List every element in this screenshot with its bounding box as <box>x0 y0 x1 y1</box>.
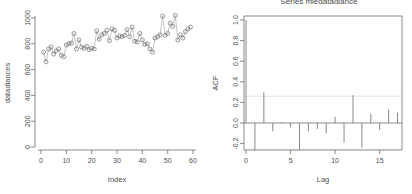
acf-x-ticks <box>246 150 380 154</box>
scatter-y-tick-label: 600 <box>24 64 31 76</box>
acf-y-ticks <box>240 20 244 144</box>
scatter-y-tick-label: 200 <box>24 115 31 127</box>
acf-y-tick-label: 1.0 <box>232 15 239 25</box>
scatter-y-tick-label: 400 <box>24 89 31 101</box>
scatter-y-ticks <box>31 18 35 147</box>
acf-x-tick-label: 15 <box>376 157 384 164</box>
scatter-x-tick-label: 50 <box>164 157 172 164</box>
scatter-y-tick-label: 0 <box>24 145 31 149</box>
acf-y-tick-label: 0.6 <box>232 56 239 66</box>
scatter-x-tick-label: 40 <box>138 157 146 164</box>
acf-x-tick-label: 10 <box>331 157 339 164</box>
acf-y-axis-title: ACF <box>211 75 220 90</box>
scatter-y-tick-label: 800 <box>24 38 31 50</box>
scatter-x-axis-title: Index <box>108 175 127 184</box>
scatter-panel: 0 200 400 600 800 1000 0 10 20 <box>0 0 206 194</box>
acf-y-tick-label: 0.8 <box>232 36 239 46</box>
scatter-y-tick-label: 1000 <box>24 10 31 26</box>
acf-bar-group <box>246 20 398 150</box>
scatter-x-tick-label: 20 <box>88 157 96 164</box>
scatter-x-tick-label: 30 <box>113 157 121 164</box>
scatter-x-tick-label: 10 <box>62 157 70 164</box>
acf-x-tick-label: 5 <box>289 157 293 164</box>
acf-x-tick-labels: 0 5 10 15 <box>244 157 384 164</box>
acf-plot-svg: Series mledatadiance -0.2 0.0 0.2 0.4 0.… <box>206 0 412 194</box>
scatter-x-tick-label: 60 <box>189 157 197 164</box>
acf-y-tick-label: -0.2 <box>232 137 239 149</box>
acf-y-tick-label: 0.2 <box>232 97 239 107</box>
acf-y-tick-label: 0.0 <box>232 118 239 128</box>
scatter-y-tick-labels: 0 200 400 600 800 1000 <box>24 10 31 149</box>
acf-y-tick-labels: -0.2 0.0 0.2 0.4 0.6 0.8 1.0 <box>232 15 239 150</box>
scatter-y-axis-title: datadiances <box>3 63 12 104</box>
acf-plot-title: Series mledatadiance <box>281 0 358 6</box>
acf-panel: Series mledatadiance -0.2 0.0 0.2 0.4 0.… <box>206 0 412 194</box>
figure-container: 0 200 400 600 800 1000 0 10 20 <box>0 0 412 194</box>
acf-y-tick-label: 0.4 <box>232 77 239 87</box>
scatter-x-ticks <box>41 150 193 154</box>
acf-plot-frame <box>244 16 402 150</box>
scatter-plot-svg: 0 200 400 600 800 1000 0 10 20 <box>0 0 206 194</box>
acf-x-tick-label: 0 <box>244 157 248 164</box>
acf-x-axis-title: Lag <box>317 175 330 184</box>
scatter-x-tick-label: 0 <box>39 157 43 164</box>
scatter-x-tick-labels: 0 10 20 30 40 50 60 <box>39 157 197 164</box>
